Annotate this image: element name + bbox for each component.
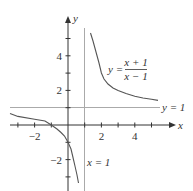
vertical-asymptote-label: x = 1 [86,156,110,168]
x-tick-label: 4 [132,130,138,142]
y-tick-label: −2 [50,154,62,166]
y-tick-label: 2 [57,84,63,96]
x-tick-label: 2 [99,130,105,142]
function-label-denominator: x − 1 [123,70,147,82]
x-tick-label: −2 [29,130,41,142]
y-tick-label: 4 [57,50,63,62]
x-axis-label: x [177,119,183,131]
y-axis-arrow-icon [65,16,71,23]
function-label-lhs: y = [107,63,123,75]
graph: −2 2 4 4 2 −2 x y y = x + 1 x − 1 y = 1 … [0,0,193,191]
function-label-numerator: x + 1 [123,56,147,68]
y-axis-label: y [72,12,78,24]
horizontal-asymptote-label: y = 1 [161,101,185,113]
x-axis-arrow-icon [169,122,176,128]
